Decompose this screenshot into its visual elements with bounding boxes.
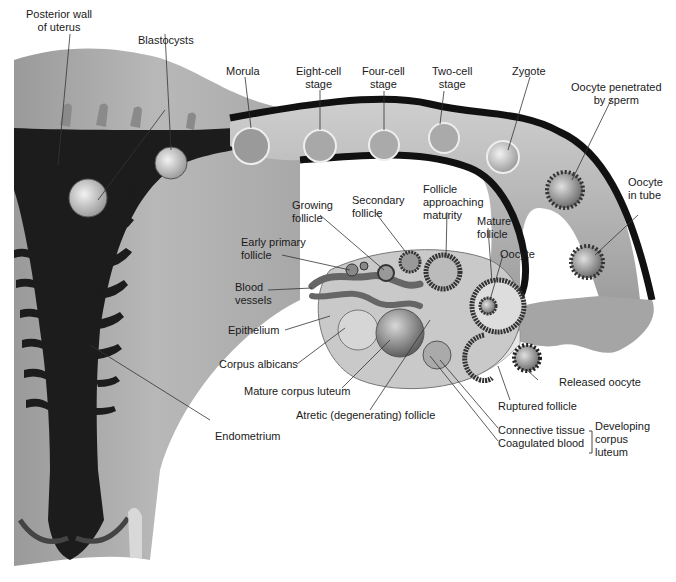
label-follicle-approaching-maturity: Follicle approaching maturity: [423, 183, 484, 222]
corpus-albicans: [338, 310, 378, 350]
label-corpus-albicans: Corpus albicans: [219, 358, 298, 371]
label-epithelium: Epithelium: [228, 324, 279, 337]
label-morula: Morula: [226, 65, 260, 78]
mature-follicle-oocyte: [480, 298, 496, 314]
eight-cell-stage: [304, 130, 336, 162]
morula: [233, 128, 269, 164]
label-oocyte-penetrated: Oocyte penetrated by sperm: [571, 81, 662, 107]
bracket: [589, 431, 592, 453]
label-blastocysts: Blastocysts: [138, 34, 194, 47]
label-zygote: Zygote: [512, 65, 546, 78]
label-four-cell-stage: Four-cell stage: [362, 65, 405, 91]
blastocyst-1: [69, 179, 107, 217]
label-oocyte-in-tube: Oocyte in tube: [628, 176, 663, 202]
label-oocyte: Oocyte: [500, 248, 535, 261]
oocyte-in-tube: [571, 246, 603, 278]
label-two-cell-stage: Two-cell stage: [432, 65, 472, 91]
label-blood-vessels: Blood vessels: [235, 281, 272, 307]
four-cell-stage: [369, 130, 399, 160]
label-early-primary-follicle: Early primary follicle: [241, 236, 306, 262]
early-primary-follicle: [346, 264, 358, 276]
blastocyst-2: [155, 147, 187, 179]
label-coagulated-blood: Coagulated blood: [498, 437, 584, 450]
label-eight-cell-stage: Eight-cell stage: [296, 65, 341, 91]
zygote: [487, 141, 519, 173]
mature-corpus-luteum: [376, 309, 424, 357]
label-developing-corpus-luteum: Developing corpus luteum: [595, 420, 650, 459]
follicle-approaching-maturity: [426, 255, 460, 289]
label-endometrium: Endometrium: [215, 430, 280, 443]
oocyte-penetrated: [547, 172, 583, 208]
label-growing-follicle: Growing follicle: [292, 199, 333, 225]
released-oocyte-shape: [514, 345, 540, 371]
label-secondary-follicle: Secondary follicle: [352, 194, 405, 220]
secondary-follicle: [400, 252, 420, 272]
label-mature-follicle: Mature follicle: [477, 215, 511, 241]
label-connective-tissue: Connective tissue: [498, 424, 585, 437]
label-atretic-follicle: Atretic (degenerating) follicle: [296, 409, 435, 422]
label-released-oocyte: Released oocyte: [559, 376, 641, 389]
label-ruptured-follicle: Ruptured follicle: [498, 400, 577, 413]
label-posterior-wall: Posterior wall of uterus: [26, 8, 92, 34]
label-mature-corpus-luteum: Mature corpus luteum: [244, 385, 350, 398]
two-cell-stage: [429, 123, 459, 153]
